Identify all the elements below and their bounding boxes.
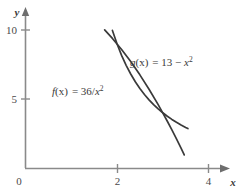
plot-area: 10 5 2 4 0 y x f(x)= 36/x2 g(x)= 13 − x2 — [0, 0, 245, 194]
curve-g-of-x — [105, 30, 185, 155]
f-label-arg: (x) — [55, 85, 68, 98]
x-tick-label-4: 4 — [206, 175, 212, 187]
g-function-label: g(x)= 13 − x2 — [130, 55, 193, 70]
f-function-label: f(x)= 36/x2 — [52, 84, 104, 99]
f-label-eq: = 36/ — [72, 85, 96, 97]
g-label-exponent: 2 — [189, 55, 193, 64]
g-label-eq: = 13 − — [152, 56, 184, 68]
g-label-arg: (x) — [136, 56, 149, 69]
y-tick-label-10: 10 — [6, 24, 18, 36]
function-graph-figure: 10 5 2 4 0 y x f(x)= 36/x2 g(x)= 13 − x2 — [0, 0, 245, 194]
curve-f-of-x — [112, 30, 187, 128]
origin-label: 0 — [16, 175, 22, 187]
y-tick-label-5: 5 — [12, 93, 18, 105]
y-axis-arrow-icon — [22, 7, 29, 16]
x-axis-arrow-icon — [220, 165, 230, 173]
y-axis-label: y — [13, 6, 20, 18]
x-axis-label: x — [229, 176, 236, 188]
x-tick-label-2: 2 — [115, 175, 121, 187]
f-label-exponent: 2 — [100, 84, 104, 93]
